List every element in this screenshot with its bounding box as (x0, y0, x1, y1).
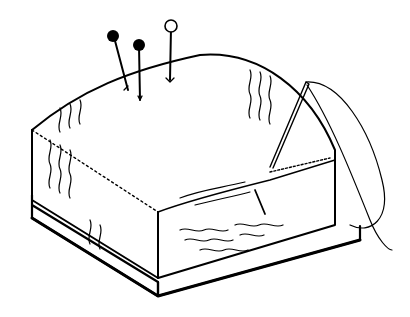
pin-head-right (165, 20, 177, 32)
illustration-canvas: Line drawing of a square pincushion with… (0, 0, 410, 317)
pincushion-drawing (0, 0, 410, 317)
pin-head-left (107, 30, 119, 42)
base-board (32, 195, 360, 296)
pin-head-middle (133, 39, 145, 51)
needle-and-thread (270, 82, 392, 250)
wavy-pattern (49, 70, 283, 251)
